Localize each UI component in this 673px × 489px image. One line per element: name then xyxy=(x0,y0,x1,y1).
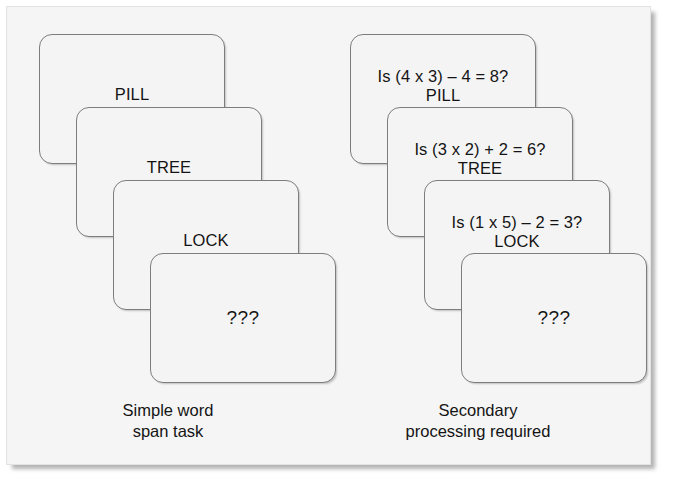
card-word: LOCK xyxy=(114,231,298,250)
card-complex-4-recall: ??? xyxy=(461,253,647,383)
panel-simple-word-span: PILL TREE LOCK ??? Simple word s xyxy=(7,7,329,464)
card-equation: Is (4 x 3) – 4 = 8? xyxy=(351,67,535,86)
card-word: PILL xyxy=(40,85,224,104)
card-word: TREE xyxy=(77,158,261,177)
card-complex-1-text: Is (4 x 3) – 4 = 8? PILL xyxy=(351,67,535,105)
card-simple-4-recall: ??? xyxy=(150,253,336,383)
card-simple-4-text: ??? xyxy=(151,254,335,382)
figure-frame: PILL TREE LOCK ??? Simple word s xyxy=(6,6,651,465)
caption-line-1: Simple word xyxy=(7,400,329,421)
recall-prompt: ??? xyxy=(226,307,259,329)
card-complex-3-text: Is (1 x 5) – 2 = 3? LOCK xyxy=(425,213,609,251)
card-word: TREE xyxy=(388,159,572,178)
caption-line-1: Secondary xyxy=(317,400,639,421)
card-word: PILL xyxy=(351,86,535,105)
card-equation: Is (3 x 2) + 2 = 6? xyxy=(388,140,572,159)
card-simple-3-text: LOCK xyxy=(114,231,298,250)
card-complex-2-text: Is (3 x 2) + 2 = 6? TREE xyxy=(388,140,572,178)
card-stack-simple: PILL TREE LOCK ??? xyxy=(7,7,329,397)
card-equation: Is (1 x 5) – 2 = 3? xyxy=(425,213,609,232)
card-complex-4-text: ??? xyxy=(462,254,646,382)
card-word: LOCK xyxy=(425,232,609,251)
recall-prompt: ??? xyxy=(537,307,570,329)
caption-line-2: span task xyxy=(7,421,329,442)
card-simple-1-text: PILL xyxy=(40,85,224,104)
card-stack-complex: Is (4 x 3) – 4 = 8? PILL Is (3 x 2) + 2 … xyxy=(317,7,639,397)
card-simple-2-text: TREE xyxy=(77,158,261,177)
caption-complex-span: Secondary processing required xyxy=(317,400,639,442)
caption-simple-word-span: Simple word span task xyxy=(7,400,329,442)
panel-complex-span: Is (4 x 3) – 4 = 8? PILL Is (3 x 2) + 2 … xyxy=(317,7,639,464)
caption-line-2: processing required xyxy=(317,421,639,442)
